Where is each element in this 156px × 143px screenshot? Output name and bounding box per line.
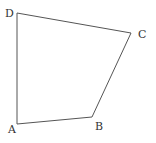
edge-cd — [17, 13, 131, 33]
edge-bc — [92, 33, 131, 117]
edge-ab — [17, 117, 92, 124]
quadrilateral-diagram: A B C D — [0, 0, 156, 143]
vertex-label-a: A — [7, 123, 17, 136]
vertex-label-d: D — [5, 7, 14, 20]
vertex-label-b: B — [95, 120, 103, 133]
vertex-label-c: C — [138, 28, 146, 41]
